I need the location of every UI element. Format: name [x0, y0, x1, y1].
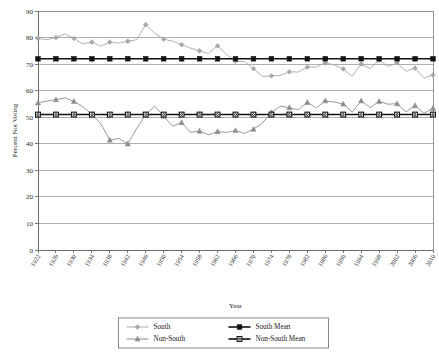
x-tick-label-1942: 1942 [119, 253, 131, 268]
y-tick-label-90: 90 [26, 8, 34, 16]
x-tick-label-1946: 1946 [137, 253, 149, 268]
marker-3-1970 [251, 112, 256, 117]
series-south [36, 22, 436, 78]
marker-3-1926-inner [55, 114, 57, 116]
marker-0-1942 [125, 39, 130, 44]
marker-3-1958 [197, 112, 202, 117]
marker-3-2002-inner [396, 114, 398, 116]
marker-3-1930-inner [73, 114, 75, 116]
marker-0-1938 [107, 40, 112, 45]
x-axis-title: Year [229, 302, 243, 310]
marker-3-2010-inner [432, 114, 434, 116]
marker-3-1978 [287, 112, 292, 117]
y-tick-label-30: 30 [26, 167, 34, 175]
marker-3-1990-inner [342, 114, 344, 116]
marker-3-1958-inner [199, 114, 201, 116]
y-tick-label-80: 80 [26, 34, 34, 42]
marker-3-1998-inner [378, 114, 380, 116]
y-tick-label-70: 70 [26, 61, 34, 69]
marker-1-1962 [215, 57, 220, 62]
legend-marker-1 [237, 325, 242, 330]
legend-marker-3 [237, 337, 242, 342]
x-tick-label-1970: 1970 [244, 253, 256, 268]
marker-1-1954 [179, 57, 184, 62]
marker-1-1950 [161, 57, 166, 62]
legend-label-3: Non-South Mean [256, 335, 306, 343]
marker-0-1958 [197, 48, 202, 53]
marker-1-2006 [413, 57, 418, 62]
marker-3-1986-inner [324, 114, 326, 116]
marker-1-1958 [197, 57, 202, 62]
x-tick-label-1950: 1950 [155, 253, 167, 268]
marker-1-1938 [108, 57, 113, 62]
x-tick-label-1974: 1974 [262, 252, 275, 267]
marker-3-1934-inner [91, 114, 93, 116]
marker-3-1946 [143, 112, 148, 117]
x-tick-label-1986: 1986 [316, 253, 328, 268]
marker-3-1950-inner [163, 114, 165, 116]
marker-3-1986 [323, 112, 328, 117]
marker-2-1970 [251, 126, 256, 131]
x-tick-label-1982: 1982 [298, 253, 310, 268]
marker-3-1994-inner [360, 114, 362, 116]
x-tick-label-1966: 1966 [226, 253, 238, 268]
legend-label-1: South Mean [256, 323, 291, 331]
marker-3-1998 [377, 112, 382, 117]
marker-3-1990 [341, 112, 346, 117]
y-tick-label-60: 60 [26, 87, 34, 95]
x-tick-label-1962: 1962 [208, 253, 220, 268]
marker-3-1934 [89, 112, 94, 117]
x-tick-label-1978: 1978 [280, 253, 292, 268]
marker-3-1970-inner [252, 114, 254, 116]
marker-3-1950 [161, 112, 166, 117]
marker-1-1986 [323, 57, 328, 62]
marker-3-1922 [36, 112, 41, 117]
legend-marker-3-inner [239, 338, 241, 340]
x-tick-label-2010: 2010 [424, 253, 436, 268]
marker-3-1962-inner [217, 114, 219, 116]
marker-3-2010 [431, 112, 436, 117]
x-tick-label-1958: 1958 [191, 253, 203, 268]
y-tick-label-20: 20 [26, 193, 34, 201]
marker-1-2002 [395, 57, 400, 62]
x-tick-label-2006: 2006 [406, 253, 418, 268]
series-line-0 [38, 25, 433, 78]
x-tick-label-1922: 1922 [29, 253, 41, 268]
marker-0-1934 [89, 40, 94, 45]
marker-3-1954-inner [181, 114, 183, 116]
marker-1-1922 [36, 57, 41, 62]
y-tick-label-10: 10 [26, 220, 34, 228]
marker-3-2006-inner [414, 114, 416, 116]
series-non-south-mean [36, 112, 436, 117]
x-tick-label-1990: 1990 [334, 253, 346, 268]
marker-3-1982 [305, 112, 310, 117]
marker-3-1962 [215, 112, 220, 117]
legend-box [119, 318, 329, 348]
marker-0-2010 [431, 73, 436, 78]
marker-0-1930 [72, 36, 77, 41]
marker-3-1938-inner [109, 114, 111, 116]
marker-1-1970 [251, 57, 256, 62]
marker-2-1994 [359, 98, 364, 103]
marker-0-1982 [305, 65, 310, 70]
x-tick-label-1998: 1998 [370, 253, 382, 268]
marker-1-1974 [269, 57, 274, 62]
marker-2-2006 [413, 103, 418, 108]
marker-2-2010 [431, 105, 436, 110]
marker-3-1978-inner [288, 114, 290, 116]
marker-3-1922-inner [37, 114, 39, 116]
chart-container: 0102030405060708090Percent Not Voting192… [0, 0, 439, 356]
marker-3-1946-inner [145, 114, 147, 116]
marker-3-1942 [125, 112, 130, 117]
marker-1-1930 [72, 57, 77, 62]
marker-2-1998 [377, 99, 382, 104]
y-tick-label-40: 40 [26, 140, 34, 148]
marker-3-2006 [413, 112, 418, 117]
marker-3-1930 [72, 112, 77, 117]
legend-label-2: Non-South [154, 335, 186, 343]
marker-0-1974 [269, 73, 274, 78]
marker-3-1966 [233, 112, 238, 117]
marker-3-1942-inner [127, 114, 129, 116]
marker-2-1982 [305, 100, 310, 105]
series-line-2 [38, 98, 433, 144]
